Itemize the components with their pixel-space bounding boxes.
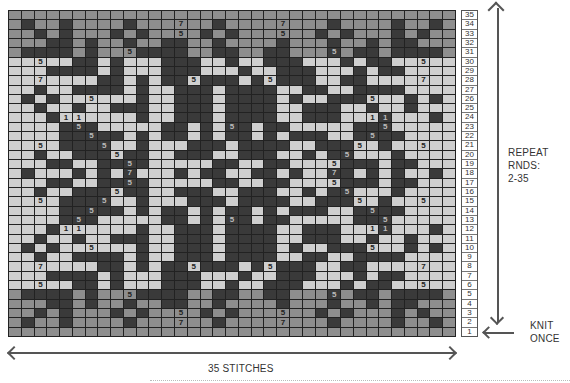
chart-cell: [252, 197, 264, 205]
chart-cell: [22, 188, 34, 196]
chart-cell: [430, 151, 442, 159]
chart-cell: [137, 48, 149, 56]
chart-cell: 5: [367, 207, 379, 215]
chart-cell: [303, 11, 315, 19]
chart-cell: 5: [418, 197, 430, 205]
chart-cell: [9, 58, 21, 66]
chart-cell: [9, 11, 21, 19]
chart-cell: [175, 244, 187, 252]
chart-cell: [252, 132, 264, 140]
chart-cell: [47, 207, 59, 215]
chart-cell: [252, 188, 264, 196]
chart-cell: [175, 104, 187, 112]
chart-cell: [239, 188, 251, 196]
chart-cell: [9, 272, 21, 280]
chart-cell: [303, 20, 315, 28]
chart-cell: [47, 160, 59, 168]
chart-cell: 5: [341, 188, 353, 196]
chart-cell: [73, 253, 85, 261]
chart-cell: [328, 123, 340, 131]
chart-cell: [430, 169, 442, 177]
chart-cell: [290, 58, 302, 66]
chart-cell: [137, 197, 149, 205]
chart-cell: [149, 216, 161, 224]
chart-cell: [405, 244, 417, 252]
chart-cell: [379, 20, 391, 28]
chart-cell: [252, 235, 264, 243]
chart-cell: [111, 123, 123, 131]
chart-cell: [35, 113, 47, 121]
chart-cell: [277, 197, 289, 205]
chart-cell: [405, 290, 417, 298]
chart-cell: [124, 30, 136, 38]
chart-cell: [379, 30, 391, 38]
chart-cell: [98, 160, 110, 168]
chart-cell: [341, 169, 353, 177]
chart-cell: [213, 262, 225, 270]
chart-cell: [264, 197, 276, 205]
chart-cell: [137, 188, 149, 196]
chart-cell: [264, 160, 276, 168]
chart-cell: [201, 141, 213, 149]
chart-cell: 5: [379, 216, 391, 224]
chart-cell: [443, 123, 455, 131]
chart-cell: [201, 160, 213, 168]
chart-cell: [430, 244, 442, 252]
chart-cell: [379, 179, 391, 187]
arrow-right-icon: [443, 346, 457, 360]
chart-cell: [22, 179, 34, 187]
chart-cell: 1: [73, 113, 85, 121]
chart-cell: [430, 123, 442, 131]
chart-cell: [137, 141, 149, 149]
chart-cell: [252, 281, 264, 289]
chart-cell: [73, 328, 85, 336]
chart-cell: [239, 300, 251, 308]
arrow-left-icon: [482, 326, 495, 339]
chart-cell: [303, 39, 315, 47]
chart-cell: [35, 123, 47, 131]
chart-cell: [124, 253, 136, 261]
chart-cell: [443, 300, 455, 308]
repeat-label-line1: REPEAT RNDS:: [508, 146, 570, 172]
chart-cell: [405, 169, 417, 177]
chart-cell: [252, 272, 264, 280]
chart-cell: [367, 309, 379, 317]
chart-cell: [213, 216, 225, 224]
chart-cell: [316, 11, 328, 19]
chart-cell: [367, 11, 379, 19]
chart-cell: [162, 272, 174, 280]
chart-cell: [418, 48, 430, 56]
chart-cell: [328, 225, 340, 233]
chart-cell: [149, 132, 161, 140]
chart-cell: [149, 169, 161, 177]
chart-cell: [430, 132, 442, 140]
chart-cell: [303, 262, 315, 270]
chart-cell: [124, 207, 136, 215]
chart-cell: [392, 58, 404, 66]
chart-cell: [162, 235, 174, 243]
chart-cell: [379, 86, 391, 94]
chart-cell: [22, 253, 34, 261]
chart-cell: [226, 197, 238, 205]
chart-cell: [277, 262, 289, 270]
chart-cell: [239, 132, 251, 140]
chart-cell: [162, 169, 174, 177]
chart-cell: [188, 95, 200, 103]
chart-cell: [290, 30, 302, 38]
chart-cell: [201, 123, 213, 131]
chart-cell: [60, 30, 72, 38]
chart-cell: [303, 95, 315, 103]
chart-cell: [418, 244, 430, 252]
chart-cell: [328, 197, 340, 205]
chart-cell: [239, 216, 251, 224]
chart-cell: [252, 253, 264, 261]
chart-cell: [9, 207, 21, 215]
chart-cell: [188, 20, 200, 28]
chart-cell: [111, 328, 123, 336]
chart-cell: [379, 318, 391, 326]
chart-cell: [35, 309, 47, 317]
chart-cell: [418, 104, 430, 112]
stitch-width-line: [10, 352, 456, 354]
chart-cell: [149, 67, 161, 75]
chart-cell: [328, 20, 340, 28]
